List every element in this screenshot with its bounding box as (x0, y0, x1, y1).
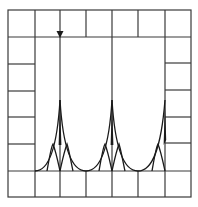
large-cusp-curves (35, 100, 165, 171)
cusp-diagram (0, 0, 198, 207)
